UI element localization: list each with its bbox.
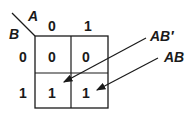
annotation-ab-prime: AB′: [150, 29, 174, 43]
cell-b0-a0: 0: [48, 50, 56, 64]
arrow-ab-prime: [64, 38, 146, 82]
cell-b1-a1: 1: [82, 86, 90, 100]
arrow-ab: [97, 58, 158, 90]
col-header-0: 0: [48, 19, 56, 33]
row-header-0: 0: [19, 50, 27, 64]
row-header-1: 1: [19, 86, 27, 100]
var-a-label: A: [28, 9, 38, 23]
cell-b1-a0: 1: [48, 86, 56, 100]
cell-b0-a1: 0: [82, 50, 90, 64]
col-header-1: 1: [84, 19, 92, 33]
var-b-label: B: [9, 27, 19, 41]
annotation-ab: AB: [164, 50, 184, 64]
